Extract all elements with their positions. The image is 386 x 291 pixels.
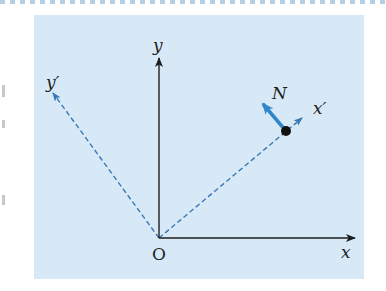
y-prime-axis-label: y′ xyxy=(45,72,60,92)
y-prime-axis xyxy=(53,93,159,238)
vector-label-n: N xyxy=(271,83,288,103)
x-axis-label: x xyxy=(341,242,351,262)
x-prime-axis xyxy=(159,118,302,238)
normal-vector-arrow xyxy=(263,104,286,131)
y-axis-label: y xyxy=(152,35,163,55)
coordinate-diagram: O x y x′ y′ N xyxy=(0,0,386,291)
point-dot xyxy=(281,126,291,136)
x-prime-axis-label: x′ xyxy=(313,98,327,118)
origin-label: O xyxy=(152,244,166,264)
